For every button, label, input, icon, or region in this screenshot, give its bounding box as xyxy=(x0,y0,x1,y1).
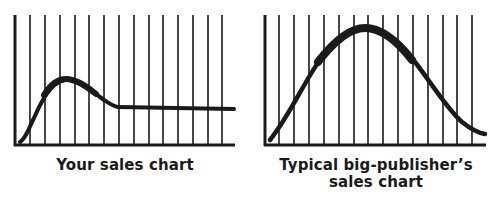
left-chart-caption: Your sales chart xyxy=(20,157,230,174)
right-chart-caption: Typical big-publisher’s sales chart xyxy=(262,157,489,191)
right-caption-line1: Typical big-publisher’s xyxy=(262,157,489,174)
right-caption-line2: sales chart xyxy=(262,174,489,191)
right-sales-curve xyxy=(270,27,485,140)
